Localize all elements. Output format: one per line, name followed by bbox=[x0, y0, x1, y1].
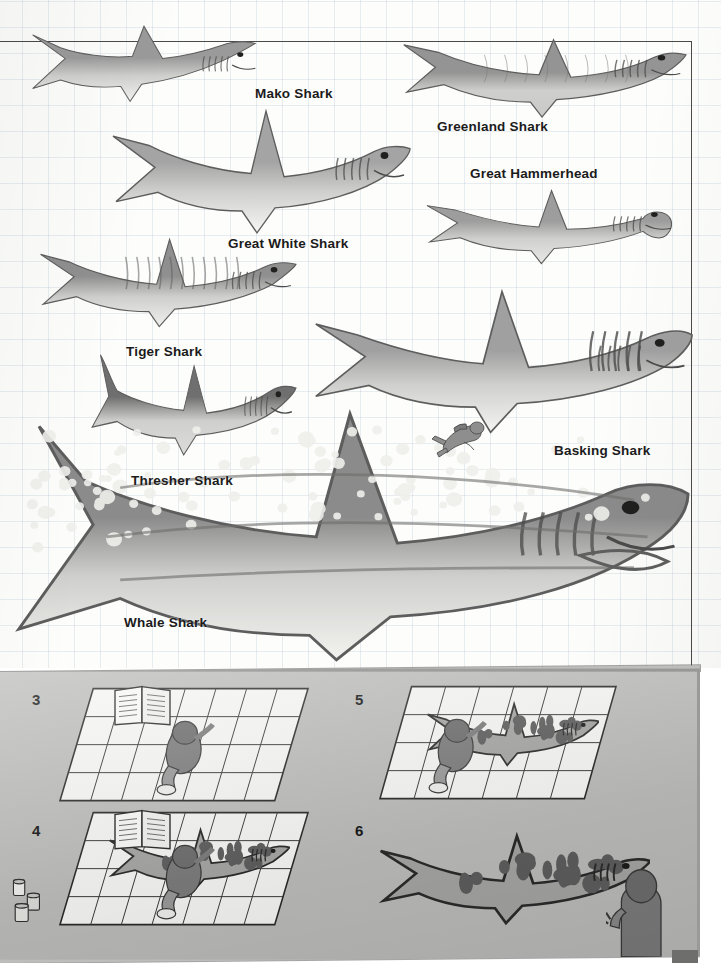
shark-eye bbox=[651, 212, 658, 217]
species-label-hammerhead: Great Hammerhead bbox=[470, 166, 598, 181]
shark-body bbox=[33, 26, 256, 101]
shark-eye bbox=[276, 391, 281, 397]
species-label-great-white: Great White Shark bbox=[228, 236, 348, 251]
scuba-diver-icon bbox=[424, 404, 490, 460]
shark-eye bbox=[622, 501, 640, 515]
shark-eye bbox=[658, 55, 665, 60]
shark-illustration-greenland bbox=[398, 20, 686, 122]
drawing-steps-panel: 3456 bbox=[0, 665, 700, 963]
species-label-tiger: Tiger Shark bbox=[126, 344, 202, 359]
panel-corner-shadow bbox=[672, 950, 698, 963]
shark-eye bbox=[381, 152, 389, 159]
shark-body bbox=[427, 191, 671, 264]
step-number-6: 6 bbox=[355, 822, 363, 839]
shark-mouth bbox=[232, 65, 255, 69]
shark-eye bbox=[271, 267, 278, 272]
species-label-basking: Basking Shark bbox=[554, 443, 650, 458]
page-bottom-margin bbox=[0, 963, 721, 977]
shark-eye bbox=[237, 52, 243, 57]
shark-eye bbox=[655, 339, 665, 347]
shark-body bbox=[316, 292, 692, 433]
shark-body bbox=[113, 111, 410, 233]
shark-size-chart: Mako SharkGreenland SharkGreat White Sha… bbox=[0, 0, 721, 668]
species-label-mako: Mako Shark bbox=[255, 86, 333, 101]
shark-illustration-hammerhead bbox=[422, 182, 676, 270]
shark-illustration-great-white bbox=[110, 108, 410, 236]
species-label-whale: Whale Shark bbox=[124, 615, 207, 630]
book-page: Mako SharkGreenland SharkGreat White Sha… bbox=[0, 0, 721, 977]
standing-person-figure bbox=[606, 867, 672, 963]
drawing-step-6: 6 bbox=[0, 669, 700, 960]
shark-body bbox=[41, 239, 296, 326]
page-right-margin bbox=[700, 672, 721, 963]
shark-illustration-mako bbox=[28, 22, 260, 110]
shark-body bbox=[404, 40, 686, 117]
species-label-greenland: Greenland Shark bbox=[437, 119, 548, 134]
species-label-thresher: Thresher Shark bbox=[131, 473, 233, 488]
